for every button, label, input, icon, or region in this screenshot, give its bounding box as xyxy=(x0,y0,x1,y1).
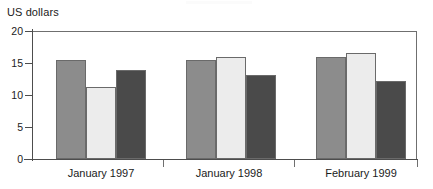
bar-3-1 xyxy=(316,57,346,159)
bar-1-1 xyxy=(56,60,86,159)
bar-2-2 xyxy=(216,57,246,159)
bar-3-2 xyxy=(346,53,376,159)
bar-1-3 xyxy=(116,70,146,159)
bar-chart-figure: US dollars 20 15 10 5 0 January 1997 Jan… xyxy=(0,0,433,189)
bar-2-3 xyxy=(246,75,276,159)
bars-layer xyxy=(0,0,433,189)
bar-1-2 xyxy=(86,87,116,159)
bar-2-1 xyxy=(186,60,216,159)
x-category-label-3: February 1999 xyxy=(305,167,417,180)
x-category-label-1: January 1997 xyxy=(46,167,156,180)
bar-3-3 xyxy=(376,81,406,159)
x-category-label-2: January 1998 xyxy=(174,167,284,180)
